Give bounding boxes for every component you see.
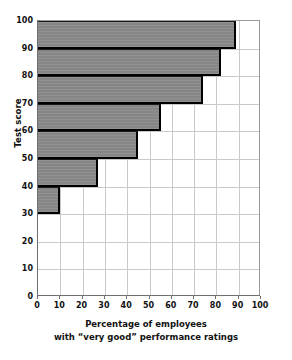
gridline-horizontal (38, 187, 259, 188)
y-tick-label: 40 (3, 181, 33, 190)
histogram-chart: Test score 0102030405060708090100 010203… (0, 0, 292, 360)
gridline-horizontal (38, 242, 259, 243)
y-tick-label: 70 (3, 98, 33, 107)
x-tick-mark (260, 296, 261, 299)
x-tick-mark (149, 296, 150, 299)
y-axis-title: Test score (13, 83, 23, 163)
plot-area (37, 20, 260, 296)
gridline-vertical (239, 21, 240, 295)
bar-70-80 (38, 76, 203, 104)
bar-30-40 (38, 187, 60, 215)
y-tick-label: 10 (3, 264, 33, 273)
x-tick-label: 100 (247, 301, 273, 310)
y-tick-label: 0 (3, 292, 33, 301)
gridline-horizontal (38, 214, 259, 215)
y-tick-label: 80 (3, 71, 33, 80)
bar-90-100 (38, 21, 236, 49)
gridline-horizontal (38, 269, 259, 270)
x-tick-mark (238, 296, 239, 299)
x-tick-mark (171, 296, 172, 299)
x-tick-mark (193, 296, 194, 299)
x-tick-mark (82, 296, 83, 299)
x-tick-mark (126, 296, 127, 299)
x-axis-title: Percentage of employees with “very good”… (0, 318, 292, 343)
bar-80-90 (38, 49, 221, 77)
y-tick-label: 20 (3, 236, 33, 245)
bar-50-60 (38, 131, 138, 159)
x-axis-title-line2: with “very good” performance ratings (0, 331, 292, 344)
y-tick-label: 30 (3, 209, 33, 218)
bar-60-70 (38, 104, 161, 132)
y-tick-label: 90 (3, 43, 33, 52)
bar-40-50 (38, 159, 98, 187)
x-axis-title-line1: Percentage of employees (0, 318, 292, 331)
x-tick-mark (59, 296, 60, 299)
y-tick-label: 60 (3, 126, 33, 135)
y-tick-label: 100 (3, 16, 33, 25)
x-tick-mark (37, 296, 38, 299)
x-tick-mark (104, 296, 105, 299)
x-tick-mark (215, 296, 216, 299)
y-tick-label: 50 (3, 154, 33, 163)
